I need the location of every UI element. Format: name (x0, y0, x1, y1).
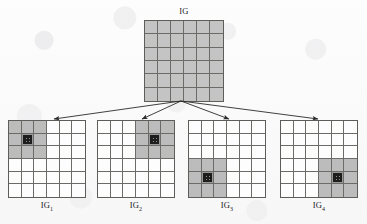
parent-grid-cell (197, 21, 210, 34)
child-grid-label-3-text: IG (221, 200, 230, 210)
child-grid-4-cell (294, 184, 307, 197)
child-grid-label-4: IG4 (280, 200, 358, 212)
child-grid-3-cell (214, 146, 227, 159)
child-grid-3-cell (227, 146, 240, 159)
child-grid-1-cell (60, 134, 73, 147)
child-grid-4-cell (332, 159, 345, 172)
parent-grid-cell (171, 88, 184, 101)
child-grid-2-cell (98, 184, 111, 197)
child-grid-1-cell (9, 184, 22, 197)
child-grid-1-cell (47, 184, 60, 197)
parent-grid-cell (145, 61, 158, 74)
child-grid-3-cell (240, 172, 253, 185)
child-grid-2-cell (149, 172, 162, 185)
child-grid-4-cell (294, 121, 307, 134)
child-grid-4-cell (344, 121, 357, 134)
child-grid-label-2: IG2 (97, 200, 175, 212)
child-grid-1-cell (72, 172, 85, 185)
child-grid-2-cell (161, 146, 174, 159)
child-grid-1-cell (34, 159, 47, 172)
parent-grid-cell (184, 61, 197, 74)
parent-grid-cell (171, 74, 184, 87)
child-grid-4-cell (344, 134, 357, 147)
parent-grid-cell (184, 48, 197, 61)
child-grid-2-cell (111, 146, 124, 159)
child-grid-2-cell (111, 184, 124, 197)
parent-grid-cell (171, 34, 184, 47)
child-grid-3-cell (240, 159, 253, 172)
child-grid-4-cell (294, 134, 307, 147)
parent-grid-cell (158, 74, 171, 87)
child-grid-block-1: IG1 (8, 120, 86, 212)
child-grid-4-cell (319, 184, 332, 197)
child-grid-1-cell (60, 172, 73, 185)
child-grid-2-cell (123, 159, 136, 172)
child-grid-2-hatched-cell (149, 134, 162, 147)
child-grid-4-cell (306, 184, 319, 197)
child-grid-1-cell (34, 146, 47, 159)
diagram-stage: IG IG1 IG2 IG3 IG4 (0, 0, 367, 224)
child-grid-3-cell (189, 121, 202, 134)
parent-grid-cell (158, 61, 171, 74)
child-grid-1-cell (47, 159, 60, 172)
child-grid-4-cell (306, 146, 319, 159)
parent-grid-label-text: IG (179, 6, 188, 16)
child-grid-3-cell (214, 134, 227, 147)
parent-grid-cell (184, 21, 197, 34)
child-grid-3-cell (240, 184, 253, 197)
child-grid-block-2: IG2 (97, 120, 175, 212)
child-grid-label-4-text: IG (313, 200, 322, 210)
parent-grid-cell (171, 61, 184, 74)
parent-grid-cell (210, 48, 223, 61)
parent-grid-cell (197, 48, 210, 61)
child-grid-3-cell (252, 146, 265, 159)
child-grid-1-cell (72, 184, 85, 197)
child-grid-4-cell (306, 172, 319, 185)
child-grid-1[interactable] (8, 120, 86, 198)
child-grid-3-cell (214, 121, 227, 134)
arrow-to-child-3 (181, 101, 229, 119)
child-grid-1-cell (34, 134, 47, 147)
child-grid-4-cell (281, 159, 294, 172)
child-grid-label-1-text: IG (41, 200, 50, 210)
child-grid-1-cell (22, 159, 35, 172)
child-grid-3-cell (240, 146, 253, 159)
child-grid-1-cell (22, 172, 35, 185)
child-grid-3-cell (227, 121, 240, 134)
hatch-pattern-icon (333, 173, 343, 183)
child-grid-2-cell (161, 159, 174, 172)
child-grid-2-cell (149, 121, 162, 134)
parent-grid-cell (197, 74, 210, 87)
child-grid-1-cell (47, 121, 60, 134)
child-grid-2-cell (149, 146, 162, 159)
parent-grid-block: IG (144, 6, 224, 102)
child-grid-4-cell (281, 134, 294, 147)
child-grid-3-cell (214, 159, 227, 172)
parent-grid-cell (145, 34, 158, 47)
child-grid-4-cell (332, 134, 345, 147)
child-grid-3-hatched-cell (202, 172, 215, 185)
child-grid-3-cell (227, 172, 240, 185)
parent-grid-cell (210, 88, 223, 101)
child-grid-3-cell (227, 159, 240, 172)
child-grid-4-hatched-cell (332, 172, 345, 185)
child-grid-4-cell (319, 172, 332, 185)
child-grid-1-cell (72, 121, 85, 134)
child-grid-1-cell (60, 159, 73, 172)
parent-grid-cell (158, 48, 171, 61)
child-grid-4-cell (319, 146, 332, 159)
child-grid-1-cell (60, 184, 73, 197)
child-grid-block-4: IG4 (280, 120, 358, 212)
child-grid-3[interactable] (188, 120, 266, 198)
child-grid-1-cell (34, 172, 47, 185)
child-grid-2-cell (98, 146, 111, 159)
child-grid-1-hatched-cell (22, 134, 35, 147)
child-grid-4[interactable] (280, 120, 358, 198)
child-grid-2[interactable] (97, 120, 175, 198)
parent-grid[interactable] (144, 20, 224, 102)
child-grid-label-2-sub: 2 (139, 206, 142, 212)
parent-grid-cell (210, 74, 223, 87)
child-grid-2-cell (136, 121, 149, 134)
child-grid-4-cell (344, 172, 357, 185)
child-grid-3-cell (227, 134, 240, 147)
